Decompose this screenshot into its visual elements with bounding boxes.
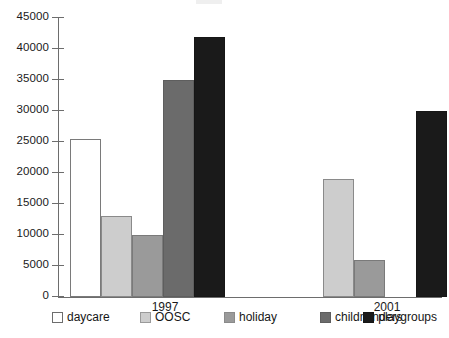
bar-holiday-1997 <box>132 235 163 297</box>
bar-holiday-2001 <box>354 260 385 297</box>
legend-swatch-holiday-icon <box>224 312 235 323</box>
legend-label: holiday <box>239 311 277 324</box>
legend-label: OOSC <box>155 311 190 324</box>
y-tick-label: 35000 <box>0 72 49 84</box>
y-tick-label: 45000 <box>0 10 49 22</box>
y-tick-label: 40000 <box>0 41 49 53</box>
cropped-title-remnant <box>196 0 222 4</box>
legend-item-daycare[interactable]: daycare <box>52 311 110 324</box>
legend-swatch-daycare-icon <box>52 312 63 323</box>
y-tick-label: 15000 <box>0 196 49 208</box>
bar-chart: 0500010000150002000025000300003500040000… <box>0 0 449 338</box>
bar-oosc-2001 <box>323 179 354 297</box>
bar-oosc-1997 <box>101 216 132 297</box>
x-axis-line <box>58 297 442 298</box>
legend-swatch-childminders-icon <box>320 312 331 323</box>
y-tick-label: 5000 <box>0 258 49 270</box>
legend-item-oosc[interactable]: OOSC <box>140 311 190 324</box>
y-tick-label: 10000 <box>0 227 49 239</box>
bar-playgroups-2001 <box>416 111 447 297</box>
y-tick-label: 20000 <box>0 165 49 177</box>
legend-label: daycare <box>67 311 110 324</box>
y-tick-label: 25000 <box>0 134 49 146</box>
legend-item-holiday[interactable]: holiday <box>224 311 277 324</box>
bar-playgroups-1997 <box>194 37 225 297</box>
legend-swatch-playgroups-icon <box>363 312 374 323</box>
legend-label: playgroups <box>378 311 437 324</box>
legend-item-playgroups[interactable]: playgroups <box>363 311 437 324</box>
plot-area <box>58 18 442 297</box>
y-tick-label: 30000 <box>0 103 49 115</box>
legend-swatch-oosc-icon <box>140 312 151 323</box>
y-tick-label: 0 <box>0 289 49 301</box>
chart-legend: daycareOOSCholidaychildmindersplaygroups <box>0 311 449 331</box>
bar-daycare-1997 <box>70 139 101 297</box>
bar-childminders-1997 <box>163 80 194 297</box>
